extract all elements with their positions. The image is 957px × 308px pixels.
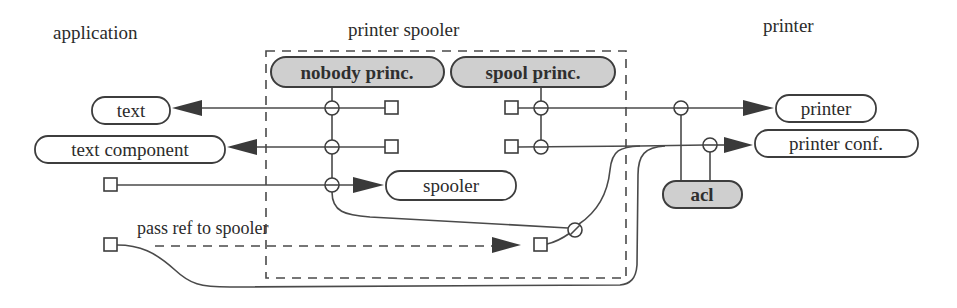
- arrow-pass-ref: [492, 237, 521, 253]
- node-printer-label: printer: [801, 98, 852, 119]
- principal-spool: spool princ.: [451, 57, 615, 87]
- junction-circle: [568, 223, 582, 237]
- diagram-svg: application printer spooler printer nobo…: [0, 0, 957, 308]
- arrow-to-text: [172, 100, 202, 116]
- port-square: [505, 101, 518, 114]
- edge-ref-port: [547, 233, 570, 244]
- node-text-label: text: [117, 100, 146, 121]
- junction-circle: [534, 101, 548, 115]
- port-square: [104, 238, 117, 251]
- node-printer-conf: printer conf.: [755, 130, 918, 157]
- junction-circle: [674, 101, 688, 115]
- port-square: [505, 140, 518, 153]
- arrow-to-spooler: [353, 177, 384, 193]
- arrow-to-printer-conf: [724, 137, 753, 153]
- node-printer: printer: [776, 95, 876, 122]
- port-square: [104, 178, 117, 191]
- node-printer-conf-label: printer conf.: [789, 133, 883, 154]
- edge-app-to-printer-conf: [117, 146, 665, 287]
- junction-circle: [325, 178, 339, 192]
- node-text-component: text component: [35, 136, 225, 163]
- junction-circle: [703, 138, 717, 152]
- principal-acl-label: acl: [690, 184, 713, 205]
- principal-nobody-label: nobody princ.: [301, 62, 414, 83]
- port-square: [385, 140, 398, 153]
- edge-label-pass-ref: pass ref to spooler: [137, 218, 268, 238]
- junction-circle: [325, 101, 339, 115]
- section-label-printer: printer: [763, 15, 814, 36]
- junction-circle: [534, 140, 548, 154]
- arrow-to-printer: [743, 100, 774, 116]
- node-spooler-label: spooler: [423, 175, 480, 196]
- arrow-to-text-component: [227, 139, 257, 155]
- node-text: text: [92, 97, 170, 124]
- section-label-application: application: [53, 22, 138, 43]
- principal-acl: acl: [663, 181, 742, 208]
- node-text-component-label: text component: [71, 139, 189, 160]
- principal-nobody: nobody princ.: [271, 57, 444, 87]
- node-spooler: spooler: [386, 171, 516, 200]
- port-square: [385, 101, 398, 114]
- port-square: [534, 238, 547, 251]
- edge-ref-to-printer-conf: [579, 146, 640, 224]
- section-label-printer-spooler: printer spooler: [348, 19, 460, 40]
- junction-circle: [325, 140, 339, 154]
- principal-spool-label: spool princ.: [485, 62, 580, 83]
- diagram-canvas: application printer spooler printer nobo…: [0, 0, 957, 308]
